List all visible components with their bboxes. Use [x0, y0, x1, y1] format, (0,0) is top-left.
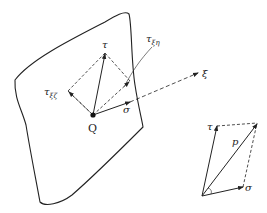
tau-xi-zeta-label: τξζ [44, 87, 57, 100]
tau-xi-zeta-sub: ξζ [50, 92, 58, 100]
point-q-label: Q [88, 123, 97, 134]
sigma-label: σ [123, 105, 130, 115]
tau-xi-eta-leader [124, 47, 152, 87]
inset-tau-label: τ [207, 122, 213, 132]
tau-xi-eta-label: τξη [146, 34, 160, 47]
xi-axis [130, 73, 198, 102]
inset-p-label: p [232, 137, 238, 147]
point-q-dot [90, 112, 95, 117]
xi-axis-label: ξ [202, 69, 208, 79]
tau-xi-eta-sub: ξη [152, 39, 160, 47]
tau-arrow [93, 54, 105, 115]
tau-label: τ [102, 40, 108, 50]
diagram-graphics [0, 0, 267, 213]
inset-sigma-label: σ [245, 183, 252, 193]
stress-vector-diagram: τ τξζ τξη σ ξ Q τ p σ [0, 0, 267, 213]
